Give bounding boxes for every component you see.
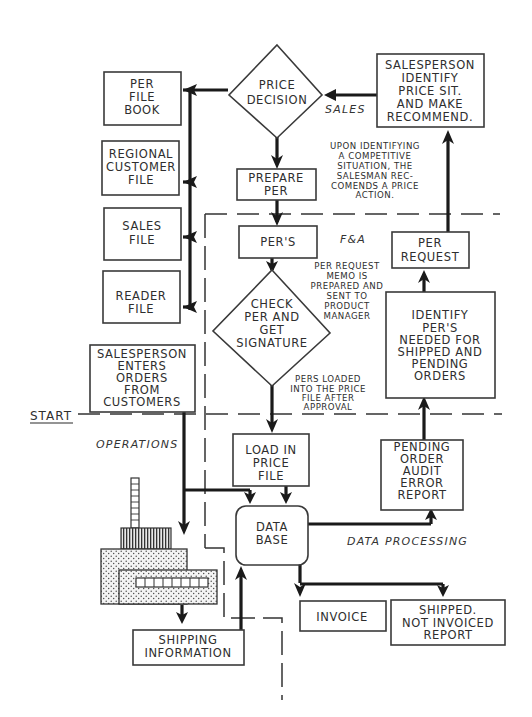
node-label: SHIPPED. — [419, 603, 477, 617]
note-line: APPROVAL — [304, 402, 353, 412]
node-per-file-book[interactable]: PER FILE BOOK — [104, 72, 181, 125]
warehouse-machine-icon — [101, 478, 217, 604]
node-label: FILE — [128, 173, 154, 187]
node-label: READER — [116, 289, 167, 303]
node-price-decision[interactable]: PRICE DECISION — [229, 45, 322, 138]
node-label: IDENTIFY — [402, 71, 459, 85]
note-line: MANAGER — [323, 311, 370, 321]
node-data-base[interactable]: DATA BASE — [236, 506, 308, 565]
node-label: BASE — [256, 533, 289, 547]
node-label: SIGNATURE — [236, 336, 307, 350]
zone-label-sales: SALES — [325, 103, 366, 116]
node-label: PRICE — [253, 456, 290, 470]
node-label: REPORT — [423, 628, 472, 642]
node-label: CUSTOMER — [106, 160, 176, 174]
note-line: A COMPETITIVE — [339, 151, 412, 161]
node-label: FILE — [129, 90, 155, 104]
node-label: REGIONAL — [109, 147, 173, 161]
zone-label-operations: OPERATIONS — [96, 438, 178, 451]
node-regional-customer-file[interactable]: REGIONAL CUSTOMER FILE — [102, 141, 179, 195]
node-label: SALESPERSON — [385, 58, 475, 72]
node-label: DECISION — [247, 93, 308, 107]
node-label: IDENTIFY — [412, 308, 469, 322]
node-reader-file[interactable]: READER FILE — [103, 271, 180, 323]
note-competitive-situation: UPON IDENTIFYING A COMPETITIVE SITUATION… — [330, 141, 420, 200]
node-sales-file[interactable]: SALES FILE — [104, 208, 181, 260]
node-invoice[interactable]: INVOICE — [300, 601, 386, 631]
note-line: PRODUCT — [324, 301, 370, 311]
node-label: SHIPPING — [159, 633, 218, 647]
node-label: REQUEST — [401, 250, 460, 264]
note-line: MEMO IS — [326, 271, 367, 281]
note-line: PER REQUEST — [314, 261, 380, 271]
node-label: LOAD IN — [245, 443, 296, 457]
node-label: PER — [418, 236, 442, 250]
node-pending-order-audit[interactable]: PENDING ORDER AUDIT ERROR REPORT — [381, 440, 463, 510]
note-line: SITUATION, THE — [337, 161, 412, 171]
arrow-left-icon — [324, 89, 336, 101]
node-per-request[interactable]: PER REQUEST — [392, 232, 469, 268]
node-label: PER — [130, 77, 154, 91]
node-label: FILE — [128, 302, 154, 316]
node-label: PER AND — [244, 310, 299, 324]
node-salesperson-enters[interactable]: SALESPERSON ENTERS ORDERS FROM CUSTOMERS — [90, 345, 195, 412]
node-pers[interactable]: PER'S — [239, 226, 317, 258]
node-prepare-per[interactable]: PREPARE PER — [237, 169, 316, 200]
node-shipped-not-invoiced[interactable]: SHIPPED. NOT INVOICED REPORT — [391, 600, 505, 645]
node-label: PRICE SIT. — [398, 84, 461, 98]
node-label: BOOK — [124, 103, 160, 117]
node-label: PER'S — [260, 235, 296, 249]
node-label: INFORMATION — [144, 646, 231, 660]
note-line: SENT TO — [327, 291, 368, 301]
start-label: START — [30, 409, 72, 423]
node-identify-pers[interactable]: IDENTIFY PER'S NEEDED FOR SHIPPED AND PE… — [386, 292, 495, 398]
node-label: FILE — [258, 469, 284, 483]
node-label: RECOMMEND. — [387, 110, 474, 124]
node-label: PRICE — [259, 78, 296, 92]
note-pers-loaded: PERS LOADED INTO THE PRICE FILE AFTER AP… — [290, 374, 366, 412]
node-salesperson-identify[interactable]: SALESPERSON IDENTIFY PRICE SIT. AND MAKE… — [377, 54, 484, 127]
note-line: UPON IDENTIFYING — [330, 141, 420, 151]
zone-label-data-processing: DATA PROCESSING — [347, 535, 468, 548]
node-label: CHECK — [251, 297, 294, 311]
node-label: DATA — [256, 520, 288, 534]
note-line: SALESMAN REC- — [337, 171, 414, 181]
node-label: CUSTOMERS — [103, 395, 181, 409]
note-per-request-memo: PER REQUEST MEMO IS PREPARED AND SENT TO… — [311, 261, 384, 321]
node-load-price-file[interactable]: LOAD IN PRICE FILE — [233, 434, 309, 486]
node-label: REPORT — [397, 488, 446, 502]
node-label: FILE — [129, 233, 155, 247]
node-label: ORDERS — [414, 369, 466, 383]
note-line: PERS LOADED — [295, 374, 361, 384]
node-label: INVOICE — [316, 610, 368, 624]
zone-label-fa: F&A — [340, 233, 366, 246]
node-shipping-information[interactable]: SHIPPING INFORMATION — [133, 630, 244, 665]
node-label: SALES — [122, 219, 161, 233]
node-label: PREPARE — [248, 171, 304, 185]
node-label: GET — [259, 323, 284, 337]
node-label: PER — [264, 184, 288, 198]
price-process-flowchart: SALES F&A OPERATIONS DATA PROCESSING STA… — [0, 0, 532, 717]
node-label: AND MAKE — [397, 97, 463, 111]
note-line: ACTION. — [356, 190, 395, 200]
note-line: PREPARED AND — [311, 281, 384, 291]
